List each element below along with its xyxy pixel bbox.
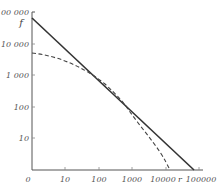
y-tick-label: 100 (14, 103, 29, 112)
y-tick-label: 10 (19, 134, 29, 143)
dashed-series-curve (32, 53, 170, 170)
y-axis-label: f (18, 17, 25, 28)
log-log-chart: 100 000 10 000 1 000 100 10 f 0 10 100 1… (0, 0, 217, 189)
y-tick-label: 100 000 (0, 8, 29, 17)
y-tick-label: 10 000 (1, 40, 29, 49)
y-tick-label: 1 000 (6, 71, 29, 80)
solid-series-line (32, 18, 194, 170)
figure-caption-fragment (4, 180, 214, 189)
